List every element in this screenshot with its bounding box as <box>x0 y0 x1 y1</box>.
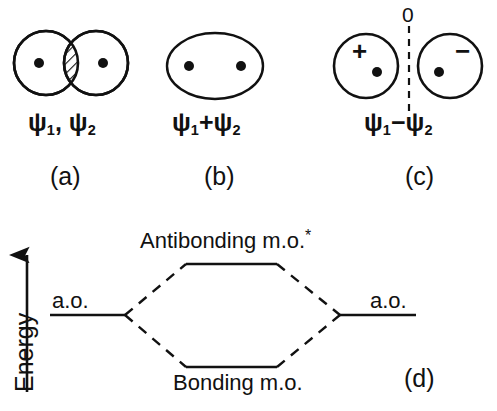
panel-b-bonding-ellipse <box>167 33 263 99</box>
left-atomic-orbital-label: a.o. <box>52 290 89 312</box>
antibonding-mo-label: Antibonding m.o.* <box>140 228 311 252</box>
left-to-antibonding-correlation-line <box>125 264 186 315</box>
bonding-mo-label: Bonding m.o. <box>173 372 303 394</box>
mo-formation-figure: ψ1, ψ2 ψ1+ψ2 ψ1−ψ2 + − 0 (a) (b) (c) Ene… <box>0 0 497 411</box>
panel-b-right-nucleus-dot <box>236 61 246 71</box>
antibonding-to-right-correlation-line <box>277 264 340 315</box>
panel-b-caption: (b) <box>204 164 235 189</box>
panel-a-formula-label: ψ1, ψ2 <box>28 110 96 138</box>
panel-c-right-nucleus-dot <box>434 67 444 77</box>
panel-c-right-lobe-circle <box>418 34 482 98</box>
right-atomic-orbital-label: a.o. <box>370 290 407 312</box>
bonding-to-right-correlation-line <box>277 315 340 367</box>
panel-a-caption: (a) <box>50 164 81 189</box>
left-to-bonding-correlation-line <box>125 315 186 367</box>
panel-d-caption: (d) <box>404 366 435 391</box>
panel-c-positive-sign-label: + <box>352 38 367 64</box>
panel-a-orbitals <box>14 31 128 95</box>
panel-c-formula-label: ψ1−ψ2 <box>364 110 432 138</box>
panel-c-left-nucleus-dot <box>372 67 382 77</box>
panel-c-node-zero-label: 0 <box>402 4 414 25</box>
energy-axis-label: Energy <box>12 313 37 392</box>
panel-b-left-nucleus-dot <box>184 61 194 71</box>
panel-a-right-nucleus-dot <box>98 58 108 68</box>
panel-a-left-nucleus-dot <box>34 58 44 68</box>
panel-b-formula-label: ψ1+ψ2 <box>172 110 240 138</box>
panel-c-negative-sign-label: − <box>455 38 470 64</box>
panel-b-orbital <box>167 33 263 99</box>
panel-c-caption: (c) <box>405 164 434 189</box>
figure-vector-layer <box>0 0 497 411</box>
